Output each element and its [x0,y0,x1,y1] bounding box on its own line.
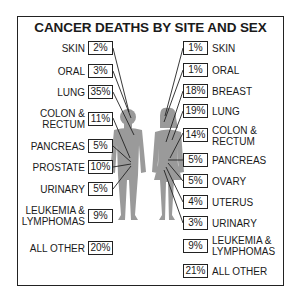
female-site-label: UTERUS [212,197,253,208]
female-site-label: ORAL [212,65,239,76]
male-site-label: PANCREAS [31,141,85,152]
male-site-label: PROSTATE [33,162,85,173]
female-site-label-line2: RECTUM [212,136,255,147]
female-site-label: ALL OTHER [212,266,267,277]
female-pct-box: 1% [183,63,208,77]
female-site-label: LUNG [212,106,240,117]
female-site-label: SKIN [212,43,235,54]
male-site-label: URINARY [40,184,85,195]
female-site-label: COLON & [212,125,257,136]
male-pct-box: 35% [88,85,113,99]
female-pct-box: 3% [183,216,208,230]
female-pct-box: 5% [183,153,208,167]
male-pct-box: 5% [88,182,113,196]
female-pct-box: 14% [183,128,208,142]
male-site-label: LUNG [57,87,85,98]
female-pct-box: 1% [183,41,208,55]
female-pct-box: 18% [183,84,208,98]
female-pct-box: 5% [183,174,208,188]
male-site-label: LEUKEMIA & [26,205,85,216]
male-site-label: ORAL [58,66,85,77]
female-pct-box: 19% [183,104,208,118]
male-pct-box: 3% [88,64,113,78]
female-pct-box: 21% [183,264,208,278]
female-site-label: OVARY [212,176,246,187]
male-site-label: ALL OTHER [30,243,85,254]
male-site-label-line2: RECTUM [42,119,85,130]
female-site-label: BREAST [212,86,252,97]
male-pct-box: 10% [88,160,113,174]
female-site-label-line2: LYMPHOMAS [212,246,275,257]
male-site-label: COLON & [40,108,85,119]
male-pct-box: 5% [88,139,113,153]
male-site-label-line2: LYMPHOMAS [22,216,85,227]
female-figure-icon [152,108,184,220]
male-pct-box: 11% [88,112,113,126]
female-site-label: LEUKEMIA & [212,235,271,246]
female-site-label: PANCREAS [212,155,266,166]
female-pct-box: 9% [183,239,208,253]
female-pct-box: 4% [183,195,208,209]
male-pct-box: 9% [88,209,113,223]
male-pct-box: 20% [88,241,113,255]
male-site-label: SKIN [62,43,85,54]
male-pct-box: 2% [88,41,113,55]
female-site-label: URINARY [212,218,257,229]
